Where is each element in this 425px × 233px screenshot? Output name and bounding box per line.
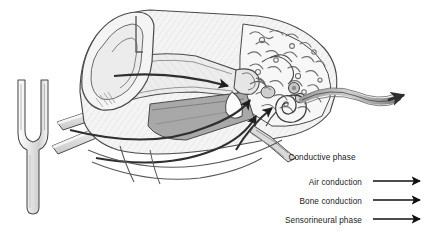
tuning-fork bbox=[18, 80, 48, 214]
